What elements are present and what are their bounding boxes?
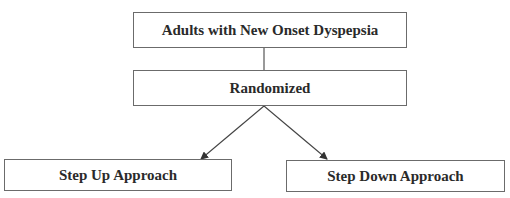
node-step-up: Step Up Approach: [4, 159, 232, 191]
node-step-down: Step Down Approach: [286, 160, 505, 192]
node-step-down-label: Step Down Approach: [327, 168, 463, 185]
node-randomized-label: Randomized: [230, 80, 311, 97]
arrow-to-step-down: [264, 106, 327, 159]
node-step-up-label: Step Up Approach: [59, 167, 177, 184]
node-population: Adults with New Onset Dyspepsia: [133, 12, 407, 48]
node-randomized: Randomized: [133, 70, 407, 106]
arrow-to-step-up: [201, 106, 264, 159]
node-population-label: Adults with New Onset Dyspepsia: [162, 22, 379, 39]
